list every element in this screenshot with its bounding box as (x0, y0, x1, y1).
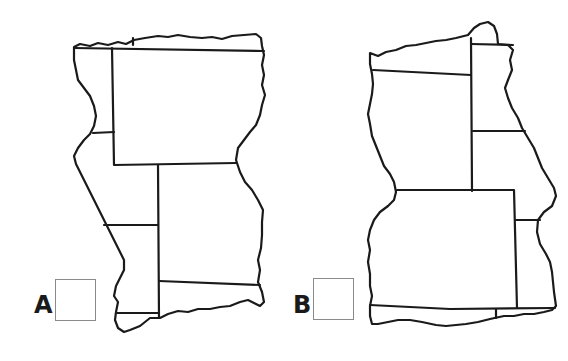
map-a-outline (74, 34, 265, 332)
map-a-border (159, 281, 260, 285)
option-b-label: B (293, 291, 311, 319)
map-a-border (93, 132, 114, 133)
map-a-border (112, 48, 236, 165)
map-b-border (373, 70, 471, 75)
map-b-border (397, 190, 517, 308)
map-b-border (471, 44, 513, 45)
option-b-checkbox[interactable] (313, 278, 354, 320)
map-b-border (370, 305, 555, 309)
option-a-checkbox[interactable] (55, 279, 96, 321)
map-a-border (158, 165, 159, 318)
map-b-outline (368, 22, 556, 326)
option-a-label: A (34, 291, 53, 319)
map-a-border (74, 48, 264, 51)
map-b-border (471, 38, 472, 191)
